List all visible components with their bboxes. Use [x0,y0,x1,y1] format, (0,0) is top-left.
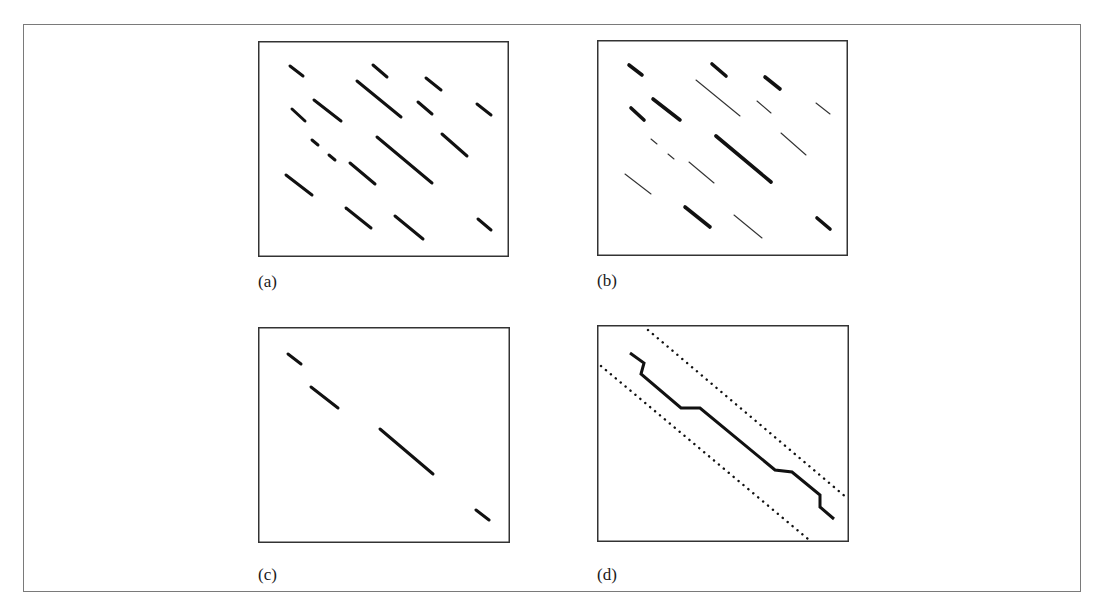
panel-d-plot [597,325,849,542]
panel-a-caption: (a) [258,273,277,290]
panel-a-plot [258,41,509,257]
panel-c-plot [258,327,510,543]
figure-frame [23,24,1081,592]
panel-c-caption: (c) [258,566,277,583]
panel-c-selected-segments [258,327,510,543]
panel-b-weighted-segments [597,40,848,256]
panel-b-caption: (b) [597,272,617,289]
panel-d-caption: (d) [597,566,617,583]
panel-b-plot [597,40,848,256]
panel-a-scattered-segments [258,41,509,257]
panel-d-alignment-path [597,325,849,542]
